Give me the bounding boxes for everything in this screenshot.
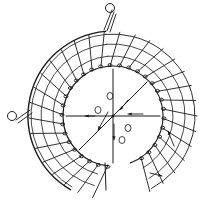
tread-line	[35, 142, 70, 149]
handrail-volute	[8, 112, 17, 121]
outer-rail	[28, 31, 106, 189]
handrail-end-top	[104, 10, 116, 32]
marker-circle	[107, 93, 113, 100]
tread-line	[163, 109, 197, 116]
staircase-drawing	[0, 0, 208, 206]
tread-line	[128, 41, 149, 69]
tread-line	[141, 157, 150, 191]
tread-line	[78, 164, 99, 192]
tread-line	[43, 149, 76, 162]
tread-line	[74, 41, 84, 75]
marker-circle	[125, 125, 131, 132]
tread-line	[148, 152, 163, 184]
inner-ring-right	[109, 66, 163, 163]
tread-line	[163, 118, 196, 131]
tread-line	[119, 35, 135, 66]
tread-line	[110, 32, 120, 66]
center-post	[112, 115, 115, 118]
marker-circle	[119, 137, 125, 144]
tread-line	[151, 71, 184, 83]
spiral-staircase-sketch: Hand-drawn plan sketch of a spiral stair…	[0, 0, 208, 206]
tread-line	[89, 36, 92, 71]
tread-line	[29, 118, 64, 124]
handrail-volute	[106, 4, 115, 13]
outer-stringer-right	[106, 34, 195, 188]
direction-arrow-head	[128, 112, 132, 115]
tread-line	[30, 102, 63, 114]
direction-arrow-head	[85, 114, 89, 117]
marker-circle	[95, 107, 101, 114]
tread-line	[157, 85, 192, 91]
tread-line	[101, 32, 104, 67]
handrail-end-left	[16, 110, 32, 123]
